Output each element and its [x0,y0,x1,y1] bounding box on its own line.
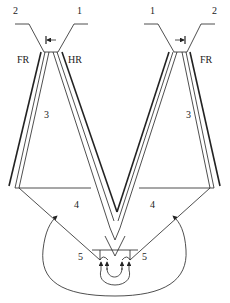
left-waveguide-right-edge [53,52,117,228]
v-junction [105,228,125,256]
right-direction-arrow-icon [175,36,185,44]
label-left-fr: FR [17,55,29,65]
label-right-region-3: 3 [186,110,191,120]
right-waveguide-right-edge [182,52,220,188]
label-left-region-5: 5 [78,252,83,262]
label-left-region-4: 4 [74,200,79,210]
left-waveguide-left-edge [9,52,49,188]
label-right-region-4: 4 [150,200,155,210]
left-taper-line [19,188,100,260]
coupler-diagram [0,0,230,303]
label-right-fr: FR [200,55,212,65]
outer-loop-arrow-right-icon [115,216,186,296]
right-port-lines [144,24,215,52]
right-waveguide-left-edge [117,52,177,228]
label-right-port-2: 2 [212,6,217,16]
right-taper-line [130,188,210,260]
label-left-region-3: 3 [44,110,49,120]
label-left-port-2: 2 [13,6,18,16]
label-right-region-5: 5 [142,252,147,262]
label-left-port-1: 1 [77,6,82,16]
label-right-port-1: 1 [150,6,155,16]
label-left-hr: HR [68,55,82,65]
left-direction-arrow-icon [46,36,56,44]
left-port-lines [15,24,88,52]
bottom-feedback-arrows [100,262,129,285]
